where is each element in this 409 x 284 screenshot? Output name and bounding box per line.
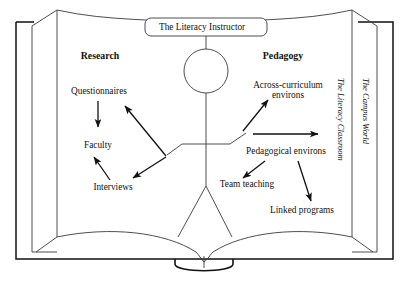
node-pedagogical-environs: Pedagogical environs — [240, 146, 332, 157]
node-across-curriculum-environs: Across-curriculum environs — [251, 80, 325, 100]
node-team-teaching: Team teaching — [215, 179, 279, 190]
node-faculty: Faculty — [72, 140, 124, 151]
literacy-instructor-label: The Literacy Instructor — [159, 22, 245, 32]
arrow-arm-to-across-curriculum — [243, 100, 268, 131]
arrow-arm-to-questionnaires — [125, 106, 166, 156]
arrow-interviews-to-faculty — [94, 157, 110, 180]
book-cover-boards — [32, 10, 377, 252]
ring-label-literacy-classroom: The Literacy Classroom — [336, 78, 346, 161]
node-questionnaires: Questionnaires — [60, 86, 138, 97]
heading-pedagogy: Pedagogy — [243, 51, 323, 62]
arrow-pedagogical-to-team-teaching — [243, 161, 265, 178]
arrow-arm-to-interviews — [133, 157, 166, 178]
book-diagram-graphic — [0, 0, 409, 284]
arrow-pedagogical-to-linked-programs — [298, 161, 311, 201]
instructor-stick-figure — [167, 36, 246, 237]
node-interviews: Interviews — [82, 182, 144, 193]
heading-research: Research — [60, 51, 140, 62]
node-linked-programs: Linked programs — [266, 205, 338, 216]
ring-label-campus-world: The Campus World — [361, 78, 371, 144]
diagram-canvas: The Literacy Instructor Research Pedagog… — [0, 0, 409, 284]
